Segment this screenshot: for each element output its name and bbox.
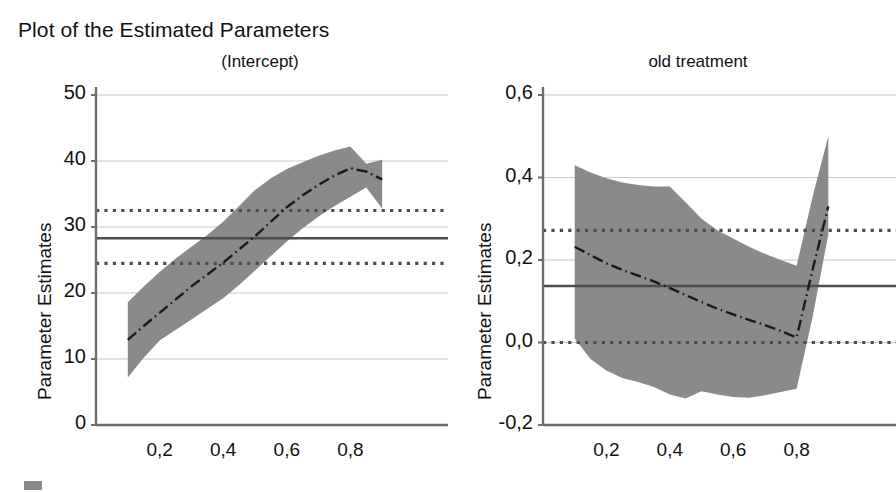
x-tick-label: 0,4 bbox=[640, 439, 700, 461]
x-tick-label: 0,2 bbox=[130, 439, 190, 461]
y-tick-label: 40 bbox=[64, 147, 86, 170]
x-tick-label: 0,8 bbox=[320, 439, 380, 461]
y-tick-label: -0,2 bbox=[499, 411, 533, 434]
y-tick-label: 0,2 bbox=[505, 246, 533, 269]
panel-intercept: (Intercept) Parameter Estimates 01020304… bbox=[0, 0, 448, 492]
y-tick-label: 0,6 bbox=[505, 81, 533, 104]
panel-old-treatment: old treatment Parameter Estimates -0,20,… bbox=[448, 0, 896, 492]
x-tick-label: 0,6 bbox=[257, 439, 317, 461]
plot-area-intercept bbox=[0, 0, 448, 492]
y-tick-label: 30 bbox=[64, 213, 86, 236]
confidence-band bbox=[575, 136, 829, 398]
x-tick-label: 0,8 bbox=[767, 439, 827, 461]
y-tick-label: 0 bbox=[75, 411, 86, 434]
y-tick-label: 0,0 bbox=[505, 329, 533, 352]
confidence-band-swatch bbox=[24, 481, 42, 490]
x-tick-label: 0,4 bbox=[193, 439, 253, 461]
y-tick-label: 20 bbox=[64, 279, 86, 302]
figure-canvas: Plot of the Estimated Parameters (Interc… bbox=[0, 0, 896, 492]
x-tick-label: 0,6 bbox=[703, 439, 763, 461]
x-tick-label: 0,2 bbox=[576, 439, 636, 461]
y-tick-label: 50 bbox=[64, 81, 86, 104]
y-tick-label: 10 bbox=[64, 345, 86, 368]
y-tick-label: 0,4 bbox=[505, 164, 533, 187]
